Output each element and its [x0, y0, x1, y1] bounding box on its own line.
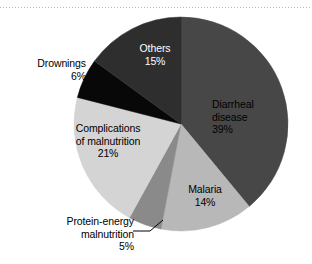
- slice-label-complications-line2: of malnutrition: [52, 135, 164, 148]
- slice-label-diarrheal-disease: Diarrheal disease 39%: [212, 98, 290, 136]
- slice-label-drownings: Drownings 6%: [8, 57, 86, 82]
- slice-label-complications-of-malnutrition: Complications of malnutrition 21%: [52, 122, 164, 160]
- slice-label-diarrheal-disease-line2: disease: [212, 111, 290, 124]
- slice-label-malaria-percent: 14%: [174, 196, 236, 209]
- slice-label-protein-energy-percent: 5%: [22, 240, 134, 253]
- slice-label-others-name: Others: [120, 42, 190, 55]
- slice-label-protein-energy-line2: malnutrition: [22, 228, 134, 241]
- slice-label-complications-line1: Complications: [52, 122, 164, 135]
- slice-label-drownings-percent: 6%: [8, 70, 86, 83]
- slice-label-complications-percent: 21%: [52, 147, 164, 160]
- slice-label-others-percent: 15%: [120, 55, 190, 68]
- slice-label-drownings-name: Drownings: [8, 57, 86, 70]
- slice-label-protein-energy-line1: Protein-energy: [22, 215, 134, 228]
- slice-label-malaria: Malaria 14%: [174, 183, 236, 208]
- slice-label-protein-energy-malnutrition: Protein-energy malnutrition 5%: [22, 215, 134, 253]
- pie-chart-figure: Others 15% Diarrheal disease 39% Malaria…: [0, 0, 312, 264]
- slice-label-diarrheal-disease-line1: Diarrheal: [212, 98, 290, 111]
- slice-label-diarrheal-disease-percent: 39%: [212, 123, 290, 136]
- slice-label-others: Others 15%: [120, 42, 190, 67]
- slice-label-malaria-name: Malaria: [174, 183, 236, 196]
